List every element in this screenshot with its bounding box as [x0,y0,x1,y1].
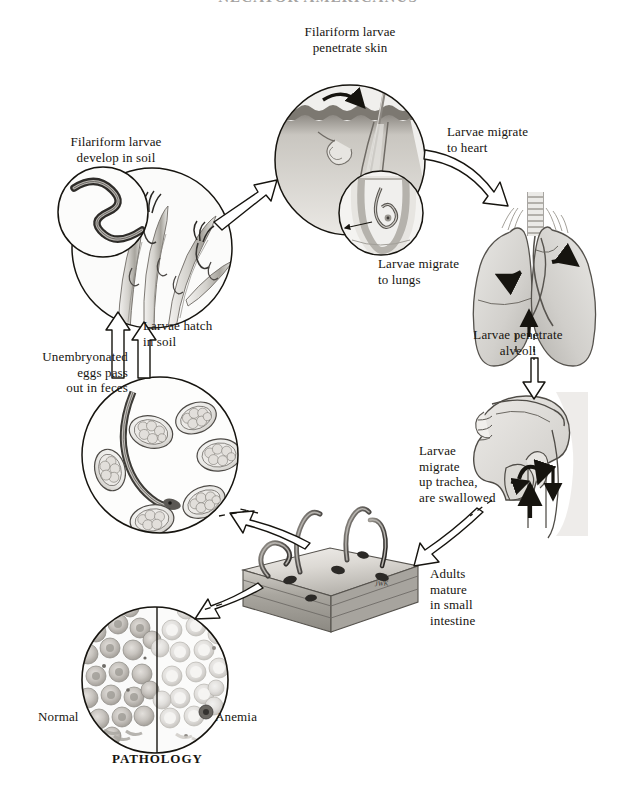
art-blood-smear [78,599,229,753]
label-migrate-up-trachea: Larvae migrate up trachea, are swallowed [419,443,531,505]
arrow-skin-to-heart [424,150,508,206]
label-adults-in-intestine: Adults mature in small intestine [430,566,516,628]
label-eggs-in-feces: Unembryonated eggs pass out in feces [6,349,128,396]
label-migrate-to-lungs: Larvae migrate to lungs [378,256,504,287]
label-normal: Normal [38,709,108,725]
label-migrate-to-heart: Larvae migrate to heart [447,124,587,155]
label-anemia: Anemia [215,709,291,725]
art-eggs-feces [82,377,243,539]
art-follicle-inset [339,171,423,260]
label-develop-in-soil: Filariform larvae develop in soil [32,134,200,165]
artist-signature: JWK [374,579,388,588]
arrow-head-to-intestine [414,508,483,566]
label-hatch-in-soil: Larvae hatch in soil [143,318,273,349]
art-filariform-inset [58,167,148,257]
label-penetrate-skin: Filariform larvae penetrate skin [262,24,438,55]
arrow-soil-to-skin [214,180,277,230]
arrow-lungs-to-head [523,358,545,399]
diagram-artwork: JWK [0,0,636,791]
label-pathology-caption: PATHOLOGY [112,751,203,767]
life-cycle-figure: NECATOR AMERICANUS [0,0,636,791]
label-penetrate-alveoli: Larvae penetrate alveoli [448,327,588,358]
